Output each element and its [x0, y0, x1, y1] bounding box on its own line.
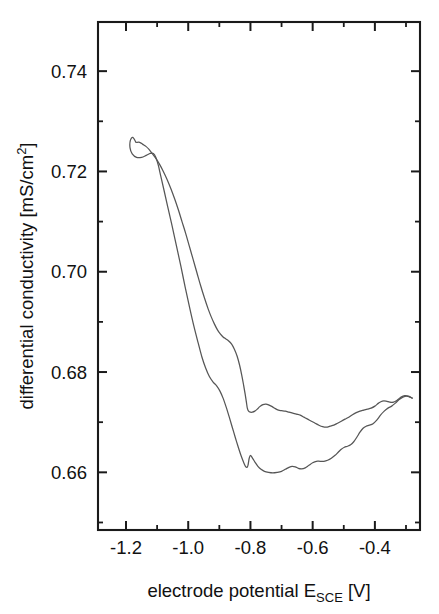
figure-container: -1.2-1.0-0.8-0.6-0.40.740.720.700.680.66… [0, 0, 439, 614]
chart-plot: -1.2-1.0-0.8-0.6-0.40.740.720.700.680.66… [0, 0, 439, 614]
x-tick-label: -0.6 [297, 537, 329, 558]
x-tick-label: -1.0 [172, 537, 204, 558]
y-tick-label: 0.68 [51, 362, 87, 383]
y-axis-title: differential conductivity [mS/cm2] [14, 142, 37, 409]
axis-ticks [98, 22, 420, 530]
data-series-group [130, 137, 412, 473]
axis-tick-labels: -1.2-1.0-0.8-0.6-0.40.740.720.700.680.66 [51, 61, 391, 558]
x-tick-label: -0.8 [234, 537, 266, 558]
data-curve [130, 137, 412, 473]
data-curve [137, 142, 413, 427]
plot-frame [98, 22, 420, 530]
x-tick-label: -1.2 [110, 537, 142, 558]
y-tick-label: 0.70 [51, 261, 87, 282]
y-tick-label: 0.72 [51, 161, 87, 182]
x-tick-label: -0.4 [359, 537, 391, 558]
y-tick-label: 0.66 [51, 462, 87, 483]
y-tick-label: 0.74 [51, 61, 87, 82]
x-axis-title: electrode potential ESCE [V] [147, 580, 370, 605]
